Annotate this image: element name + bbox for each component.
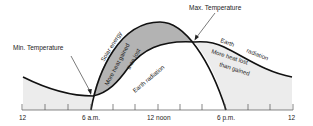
tick-label-midnight-end: 12 <box>288 114 296 121</box>
solar-earth-radiation-diagram: 12 6 a.m. 12 noon 6 p.m. 12 Min. Tempera… <box>0 0 313 126</box>
min-temperature-arrowhead-icon <box>88 89 92 95</box>
min-temperature-label: Min. Temperature <box>13 44 64 52</box>
min-temperature-arrow <box>71 56 91 93</box>
earth-radiation-label-evening-b: radiation <box>246 47 270 61</box>
max-temperature-label: Max. Temperature <box>189 4 242 12</box>
max-temperature-arrow <box>196 13 215 38</box>
tick-label-6pm: 6 p.m. <box>217 114 235 122</box>
tick-label-midnight-start: 12 <box>19 114 27 121</box>
tick-label-6am: 6 a.m. <box>82 114 100 121</box>
tick-label-noon: 12 noon <box>147 114 171 121</box>
loss-region-evening <box>194 42 292 110</box>
earth-radiation-label-day: Earth radiation <box>132 64 166 94</box>
